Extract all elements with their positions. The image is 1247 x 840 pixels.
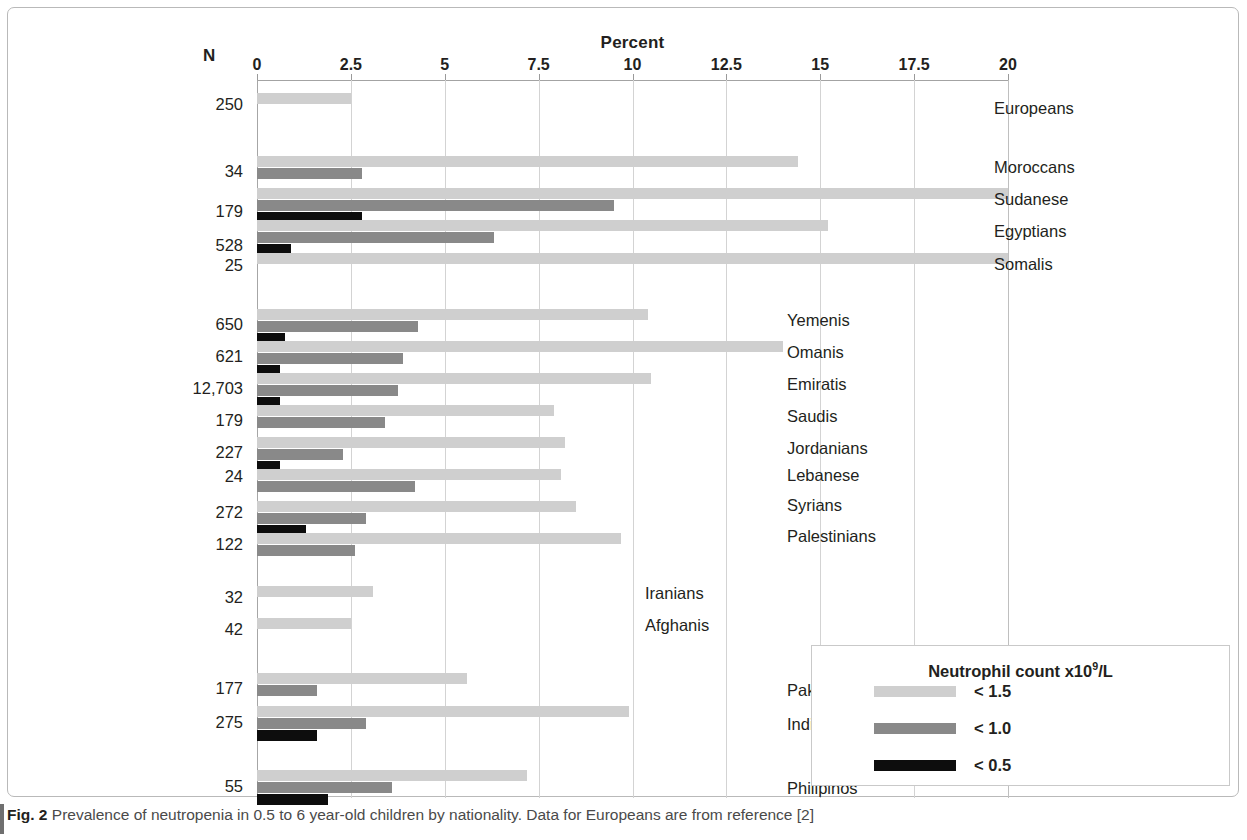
n-value-label: 42 [118,620,243,639]
legend-swatch [874,760,956,771]
bar-segment [257,341,783,352]
bar-segment [257,449,343,460]
legend-entry: < 1.5 [874,680,1229,702]
bar-segment [257,156,798,167]
category-label: Lebanese [787,466,860,485]
n-value-label: 275 [118,713,243,732]
x-tick-label: 17.5 [899,56,930,74]
bar-segment [257,93,351,104]
legend-label: < 1.5 [974,680,1011,702]
bar-segment [257,188,1008,199]
n-value-label: 650 [118,315,243,334]
x-tick-label: 15 [811,56,829,74]
legend-box: Neutrophil count x109/L < 1.5< 1.0< 0.5 [811,645,1230,786]
n-value-label: 272 [118,503,243,522]
category-label: Emiratis [787,375,847,394]
caption-text: Prevalence of neutropenia in 0.5 to 6 ye… [52,806,814,823]
category-label: Syrians [787,496,842,515]
category-label: Palestinians [787,527,876,546]
legend-label: < 1.0 [974,717,1011,739]
bar-segment [257,782,392,793]
caption-accent-bar [0,804,4,834]
n-value-label: 55 [118,777,243,796]
bar-segment [257,220,828,231]
bar-segment [257,501,576,512]
n-value-label: 621 [118,347,243,366]
category-label: Saudis [787,407,837,426]
bar-segment [257,417,385,428]
figure-caption: Fig. 2 Prevalence of neutropenia in 0.5 … [7,806,1239,824]
bar-segment [257,730,317,741]
n-value-label: 24 [118,467,243,486]
legend-swatch [874,723,956,734]
bar-segment [257,706,629,717]
bar-segment [257,469,561,480]
bar-segment [257,770,527,781]
x-tick-label: 12.5 [711,56,742,74]
n-value-label: 250 [118,95,243,114]
bar-segment [257,437,565,448]
figure-frame: Percent N 02.557.51012.51517.520 250Euro… [7,7,1239,797]
x-axis-title: Percent [257,33,1008,53]
category-label: Egyptians [994,222,1066,241]
n-value-label: 25 [118,256,243,275]
x-tick-label: 10 [624,56,642,74]
x-tick-label: 5 [440,56,449,74]
bar-segment [257,253,1008,264]
legend-swatch [874,686,956,697]
category-label: Omanis [787,343,844,362]
bar-segment [257,513,366,524]
x-tick-label: 7.5 [528,56,550,74]
bar-row: 122Palestinians [8,533,1240,573]
bar-row: 25Somalis [8,253,1240,293]
bar-segment [257,718,366,729]
legend-entry: < 1.0 [874,717,1229,739]
legend-label: < 0.5 [974,754,1011,776]
category-label: Yemenis [787,311,850,330]
bar-segment [257,794,328,805]
category-label: Afghanis [645,616,709,635]
legend-entry: < 0.5 [874,754,1229,776]
n-value-label: 32 [118,588,243,607]
legend-title-prefix: Neutrophil count x10 [928,662,1092,680]
bar-segment [257,321,418,332]
bar-segment [257,481,415,492]
legend-title: Neutrophil count x109/L [812,660,1229,681]
caption-label: Fig. 2 [7,806,47,823]
bar-segment [257,168,362,179]
bar-row: 250Europeans [8,93,1240,133]
bar-segment [257,232,494,243]
x-tick-label: 0 [253,56,262,74]
x-tick-label: 2.5 [340,56,362,74]
category-label: Jordanians [787,439,868,458]
n-value-label: 227 [118,443,243,462]
bar-segment [257,673,467,684]
n-value-label: 177 [118,679,243,698]
n-value-label: 179 [118,202,243,221]
category-label: Somalis [994,255,1053,274]
bar-segment [257,586,373,597]
bar-segment [257,533,621,544]
bar-segment [257,685,317,696]
bar-segment [257,309,648,320]
bar-segment [257,200,614,211]
category-label: Europeans [994,99,1074,118]
bar-segment [257,353,403,364]
n-column-header: N [203,46,215,66]
category-label: Moroccans [994,158,1075,177]
n-value-label: 34 [118,162,243,181]
bar-chart-plot: Percent N 02.557.51012.51517.520 250Euro… [8,8,1240,798]
bar-segment [257,373,651,384]
bar-segment [257,545,355,556]
n-value-label: 12,703 [118,379,243,398]
category-label: Iranians [645,584,704,603]
legend-title-suffix: /L [1098,662,1113,680]
n-value-label: 122 [118,535,243,554]
category-label: Sudanese [994,190,1068,209]
x-tick-label: 20 [999,56,1017,74]
bar-segment [257,618,351,629]
bar-segment [257,385,398,396]
n-value-label: 179 [118,411,243,430]
bar-segment [257,405,554,416]
